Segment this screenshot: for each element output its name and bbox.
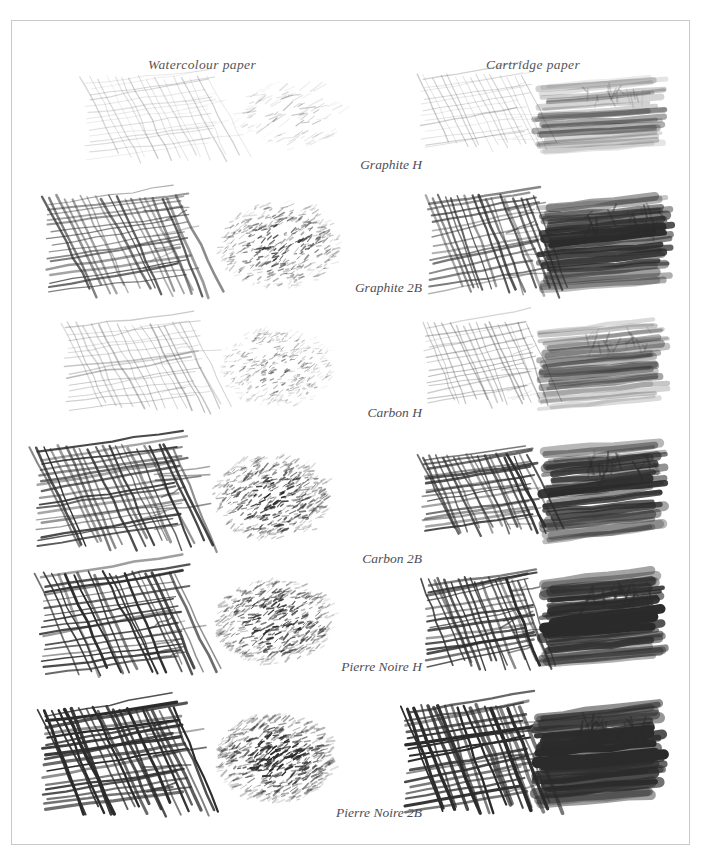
swatch-carbon-2b-watercolour-hatch bbox=[42, 451, 178, 547]
row-label-graphite-2b: Graphite 2B bbox=[262, 280, 422, 296]
swatch-art bbox=[220, 329, 332, 407]
swatch-row-carbon-2b bbox=[12, 445, 691, 555]
swatch-pierre-noire-h-cartridge-smooth bbox=[545, 581, 659, 669]
plate-frame: Watercolour paper Cartridge paper Graphi… bbox=[11, 20, 690, 845]
swatch-art bbox=[539, 83, 659, 155]
row-label-pierre-noire-2b: Pierre Noire 2B bbox=[262, 805, 422, 821]
swatch-carbon-2b-watercolour-grain bbox=[212, 457, 330, 541]
swatch-art bbox=[429, 583, 529, 667]
swatch-art bbox=[230, 85, 340, 151]
swatch-graphite-h-watercolour-tonal bbox=[230, 85, 340, 151]
swatch-art bbox=[46, 577, 180, 673]
swatch-pierre-noire-h-cartridge-hatch bbox=[429, 583, 529, 667]
swatch-art bbox=[543, 327, 661, 411]
swatch-art bbox=[217, 203, 337, 289]
swatch-pierre-noire-h-watercolour-hatch bbox=[46, 577, 180, 673]
swatch-carbon-h-watercolour-grain bbox=[220, 329, 332, 407]
swatch-art bbox=[90, 81, 210, 159]
swatch-art bbox=[433, 201, 537, 293]
row-label-graphite-h: Graphite H bbox=[262, 157, 422, 173]
swatch-graphite-2b-watercolour-hatch bbox=[52, 201, 182, 293]
swatch-graphite-2b-watercolour-grain bbox=[217, 203, 337, 289]
swatch-graphite-h-cartridge-hatch bbox=[425, 79, 525, 149]
swatch-pierre-noire-2b-watercolour-grain bbox=[216, 715, 332, 803]
swatch-row-pierre-noire-2b bbox=[12, 707, 691, 817]
swatch-art bbox=[539, 713, 657, 809]
page-root: Watercolour paper Cartridge paper Graphi… bbox=[0, 0, 704, 859]
swatch-carbon-2b-cartridge-hatch bbox=[427, 459, 531, 531]
swatch-graphite-2b-cartridge-smooth bbox=[543, 203, 665, 291]
row-label-carbon-2b: Carbon 2B bbox=[262, 551, 422, 567]
swatch-art bbox=[70, 327, 194, 409]
swatch-art bbox=[545, 581, 659, 669]
swatch-art bbox=[212, 457, 330, 541]
column-header-cartridge: Cartridge paper bbox=[486, 57, 580, 73]
swatch-art bbox=[214, 581, 332, 665]
swatch-art bbox=[42, 451, 178, 547]
swatch-art bbox=[216, 715, 332, 803]
swatch-pierre-noire-h-watercolour-grain bbox=[214, 581, 332, 665]
swatch-pierre-noire-2b-watercolour-hatch bbox=[48, 713, 180, 811]
swatch-art bbox=[543, 203, 665, 291]
row-label-pierre-noire-h: Pierre Noire H bbox=[262, 659, 422, 675]
swatch-graphite-h-watercolour-hatch bbox=[90, 81, 210, 159]
swatch-art bbox=[427, 459, 531, 531]
swatch-art bbox=[425, 79, 525, 149]
swatch-carbon-h-watercolour-hatch bbox=[70, 327, 194, 409]
swatch-carbon-h-cartridge-hatch bbox=[429, 327, 529, 405]
swatch-art bbox=[48, 713, 180, 811]
row-label-carbon-h: Carbon H bbox=[262, 405, 422, 421]
swatch-carbon-2b-cartridge-smooth bbox=[547, 449, 659, 545]
swatch-art bbox=[410, 711, 526, 811]
swatch-graphite-h-cartridge-smooth bbox=[539, 83, 659, 155]
swatch-art bbox=[52, 201, 182, 293]
swatch-art bbox=[547, 449, 659, 545]
swatch-graphite-2b-cartridge-hatch bbox=[433, 201, 537, 293]
swatch-pierre-noire-2b-cartridge-smooth bbox=[539, 713, 657, 809]
swatch-carbon-h-cartridge-smooth bbox=[543, 327, 661, 411]
swatch-art bbox=[429, 327, 529, 405]
swatch-pierre-noire-2b-cartridge-hatch bbox=[410, 711, 526, 811]
